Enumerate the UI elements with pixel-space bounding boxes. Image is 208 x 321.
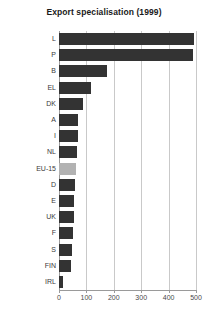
y-axis-label-fin: FIN bbox=[2, 260, 56, 272]
bar-s bbox=[59, 244, 72, 256]
bar-f bbox=[59, 227, 73, 239]
x-tick-label-100: 100 bbox=[74, 294, 98, 301]
x-axis-line bbox=[59, 290, 197, 291]
bar-dk bbox=[59, 98, 83, 110]
x-tick-mark-400 bbox=[169, 290, 170, 293]
y-axis-label-wrap: FIN bbox=[0, 260, 56, 272]
bar-el bbox=[59, 82, 91, 94]
y-axis-label-i: I bbox=[2, 130, 56, 142]
bar-row bbox=[59, 130, 196, 142]
x-tick-label-400: 400 bbox=[157, 294, 181, 301]
y-axis-label-wrap: A bbox=[0, 114, 56, 126]
bar-row bbox=[59, 179, 196, 191]
x-tick-mark-200 bbox=[114, 290, 115, 293]
y-axis-label-wrap: UK bbox=[0, 211, 56, 223]
bar-row bbox=[59, 82, 196, 94]
x-tick-label-300: 300 bbox=[129, 294, 153, 301]
y-axis-label-a: A bbox=[2, 114, 56, 126]
bar-d bbox=[59, 179, 75, 191]
bar-l bbox=[59, 33, 194, 45]
y-axis-label-e: E bbox=[2, 195, 56, 207]
bar-row bbox=[59, 211, 196, 223]
y-axis-label-el: EL bbox=[2, 82, 56, 94]
chart-title: Export specialisation (1999) bbox=[0, 7, 208, 17]
y-axis-label-wrap: DK bbox=[0, 98, 56, 110]
y-axis-label-uk: UK bbox=[2, 211, 56, 223]
y-axis-label-wrap: IRL bbox=[0, 276, 56, 288]
chart-container: Export specialisation (1999) 01002003004… bbox=[0, 0, 208, 321]
bar-row bbox=[59, 33, 196, 45]
bar-row bbox=[59, 65, 196, 77]
x-tick-mark-500 bbox=[196, 290, 197, 293]
bar-row bbox=[59, 146, 196, 158]
bar-row bbox=[59, 163, 196, 175]
x-tick-label-200: 200 bbox=[102, 294, 126, 301]
y-axis-label-wrap: S bbox=[0, 244, 56, 256]
bar-nl bbox=[59, 146, 77, 158]
bar-row bbox=[59, 49, 196, 61]
y-axis-label-p: P bbox=[2, 49, 56, 61]
bar-row bbox=[59, 98, 196, 110]
gridline-x-500 bbox=[196, 31, 197, 290]
y-axis-label-wrap: D bbox=[0, 179, 56, 191]
bar-row bbox=[59, 114, 196, 126]
x-tick-label-500: 500 bbox=[184, 294, 208, 301]
x-tick-mark-100 bbox=[86, 290, 87, 293]
y-axis-label-wrap: L bbox=[0, 33, 56, 45]
bar-fin bbox=[59, 260, 71, 272]
y-axis-label-b: B bbox=[2, 65, 56, 77]
x-tick-mark-0 bbox=[59, 290, 60, 293]
bar-row bbox=[59, 276, 196, 288]
y-axis-label-wrap: B bbox=[0, 65, 56, 77]
bar-eu-15 bbox=[59, 163, 76, 175]
bar-e bbox=[59, 195, 74, 207]
y-axis-label-wrap: F bbox=[0, 227, 56, 239]
x-tick-label-0: 0 bbox=[47, 294, 71, 301]
bar-uk bbox=[59, 211, 74, 223]
y-axis-label-f: F bbox=[2, 227, 56, 239]
bar-row bbox=[59, 260, 196, 272]
y-axis-label-wrap: EU-15 bbox=[0, 163, 56, 175]
y-axis-label-l: L bbox=[2, 33, 56, 45]
bar-irl bbox=[59, 276, 63, 288]
bar-a bbox=[59, 114, 78, 126]
bar-b bbox=[59, 65, 107, 77]
x-tick-mark-300 bbox=[141, 290, 142, 293]
y-axis-label-wrap: NL bbox=[0, 146, 56, 158]
y-axis-label-wrap: E bbox=[0, 195, 56, 207]
bar-row bbox=[59, 244, 196, 256]
y-axis-label-nl: NL bbox=[2, 146, 56, 158]
bar-row bbox=[59, 195, 196, 207]
y-axis-label-wrap: P bbox=[0, 49, 56, 61]
y-axis-label-dk: DK bbox=[2, 98, 56, 110]
y-axis-label-irl: IRL bbox=[2, 276, 56, 288]
y-axis-label-wrap: EL bbox=[0, 82, 56, 94]
bar-row bbox=[59, 227, 196, 239]
y-axis-label-wrap: I bbox=[0, 130, 56, 142]
y-axis-label-eu-15: EU-15 bbox=[2, 163, 56, 175]
bar-p bbox=[59, 49, 193, 61]
bar-i bbox=[59, 130, 78, 142]
y-axis-label-s: S bbox=[2, 244, 56, 256]
y-axis-label-d: D bbox=[2, 179, 56, 191]
